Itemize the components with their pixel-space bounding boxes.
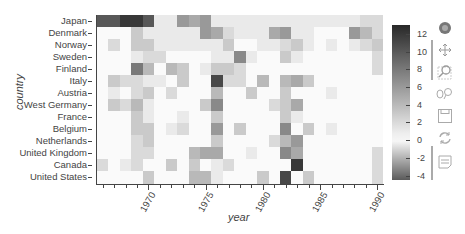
save-tool-icon[interactable]	[433, 106, 457, 126]
heatmap-cell	[349, 51, 361, 64]
heatmap-cell	[200, 87, 212, 100]
heatmap-cell	[314, 111, 326, 124]
x-tick	[171, 185, 172, 188]
heatmap-cell	[314, 51, 326, 64]
heatmap-cell	[223, 99, 235, 112]
box-zoom-tool-icon[interactable]	[433, 62, 457, 82]
heatmap-cell	[234, 123, 246, 136]
x-tick	[126, 185, 127, 188]
y-tick	[88, 81, 92, 82]
heatmap-cell	[257, 75, 269, 88]
bokeh-logo-icon[interactable]	[433, 18, 457, 38]
pan-tool-icon[interactable]	[433, 40, 457, 60]
y-tick-label: Austria	[57, 87, 92, 99]
heatmap-cell	[108, 51, 120, 64]
heatmap-cell	[360, 51, 372, 64]
heatmap-cell	[269, 27, 281, 40]
heatmap-cell	[246, 147, 258, 160]
colorbar-tick	[406, 105, 410, 106]
y-tick	[88, 93, 92, 94]
colorbar-tick-label: 4	[417, 100, 422, 110]
heatmap-cell	[177, 171, 189, 184]
heatmap-cell	[303, 111, 315, 124]
x-tick-label: 1980	[248, 190, 273, 221]
heatmap-cell	[211, 15, 223, 28]
heatmap-cell	[154, 15, 166, 28]
y-tick	[88, 117, 92, 118]
heatmap-cell	[291, 111, 303, 124]
reset-tool-icon[interactable]	[433, 128, 457, 148]
heatmap-cell	[337, 135, 349, 148]
heatmap-cell	[337, 63, 349, 76]
heatmap-plot-area[interactable]	[97, 15, 383, 183]
y-tick-label: Finland	[56, 63, 92, 75]
heatmap-cell	[246, 75, 258, 88]
heatmap-cell	[303, 159, 315, 172]
hover-tool-icon[interactable]	[433, 152, 457, 172]
heatmap-cell	[166, 51, 178, 64]
heatmap-cell	[303, 51, 315, 64]
heatmap-cell	[280, 99, 292, 112]
heatmap-cell	[326, 39, 338, 52]
heatmap-cell	[303, 27, 315, 40]
heatmap-cell	[166, 135, 178, 148]
heatmap-cell	[143, 123, 155, 136]
heatmap-cell	[223, 27, 235, 40]
heatmap-cell	[211, 111, 223, 124]
heatmap-cell	[246, 27, 258, 40]
y-tick	[88, 21, 92, 22]
y-tick-label: United Kingdom	[19, 147, 92, 159]
colorbar-tick	[406, 122, 410, 123]
heatmap-cell	[131, 75, 143, 88]
heatmap-cell	[280, 51, 292, 64]
y-tick-label: Japan	[61, 15, 92, 27]
heatmap-cell	[269, 147, 281, 160]
heatmap-cell	[360, 99, 372, 112]
heatmap-cell	[108, 171, 120, 184]
y-tick	[88, 45, 92, 46]
heatmap-cell	[257, 63, 269, 76]
wheel-zoom-tool-icon[interactable]	[433, 84, 457, 104]
heatmap-cell	[131, 87, 143, 100]
heatmap-cell	[143, 111, 155, 124]
heatmap-cell	[303, 15, 315, 28]
heatmap-cell	[314, 15, 326, 28]
heatmap-cell	[372, 171, 384, 184]
heatmap-cell	[166, 27, 178, 40]
y-axis-title: country	[13, 67, 25, 117]
heatmap-cell	[291, 123, 303, 136]
heatmap-cell	[97, 15, 109, 28]
heatmap-cell	[223, 51, 235, 64]
heatmap-cell	[372, 135, 384, 148]
heatmap-cell	[349, 111, 361, 124]
heatmap-cell	[211, 39, 223, 52]
heatmap-cell	[143, 159, 155, 172]
heatmap-cell	[97, 123, 109, 136]
heatmap-cell	[189, 171, 201, 184]
heatmap-cell	[177, 147, 189, 160]
heatmap-cell	[314, 135, 326, 148]
heatmap-cell	[189, 39, 201, 52]
x-tick	[114, 185, 115, 188]
heatmap-cell	[234, 171, 246, 184]
heatmap-cell	[349, 171, 361, 184]
heatmap-cell	[246, 51, 258, 64]
heatmap-cell	[326, 171, 338, 184]
y-tick	[88, 57, 92, 58]
heatmap-cell	[291, 75, 303, 88]
y-tick-label: France	[57, 111, 92, 123]
heatmap-cell	[234, 39, 246, 52]
heatmap-cell	[108, 27, 120, 40]
heatmap-cell	[269, 39, 281, 52]
heatmap-cell	[291, 27, 303, 40]
heatmap-cell	[314, 159, 326, 172]
colorbar-tick-label: 2	[417, 117, 422, 127]
heatmap-cell	[326, 99, 338, 112]
heatmap-cell	[200, 63, 212, 76]
heatmap-cell	[189, 111, 201, 124]
heatmap-cell	[291, 135, 303, 148]
heatmap-cell	[360, 75, 372, 88]
heatmap-cell	[166, 147, 178, 160]
heatmap-cell	[269, 159, 281, 172]
heatmap-cell	[326, 147, 338, 160]
